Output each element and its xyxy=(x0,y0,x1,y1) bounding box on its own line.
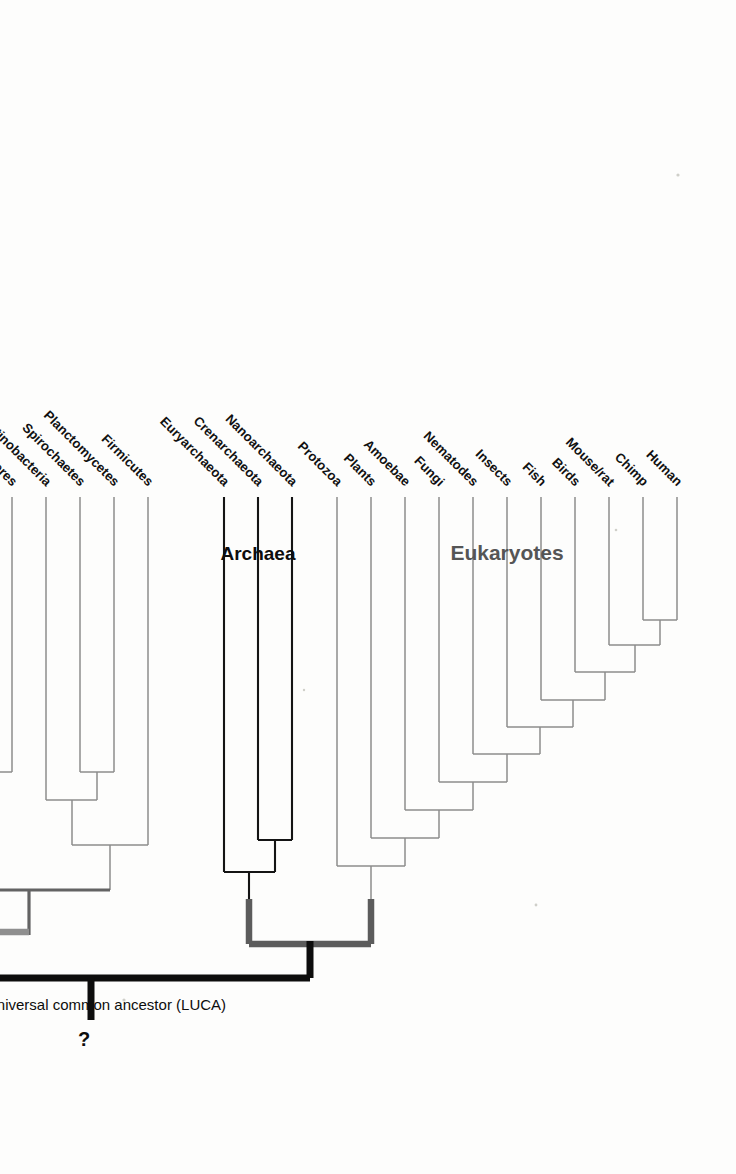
figure-page: Human Chimp Mouse/rat Birds Fish Insects… xyxy=(0,0,736,1174)
phylogenetic-tree-svg: Human Chimp Mouse/rat Birds Fish Insects… xyxy=(0,0,736,1174)
domain-label-archaea: Archaea xyxy=(221,543,296,564)
luca-label: Last universal common ancestor (LUCA) xyxy=(0,996,226,1013)
domain-label-eukaryotes: Eukaryotes xyxy=(450,541,563,564)
tree-stage: Human Chimp Mouse/rat Birds Fish Insects… xyxy=(0,0,736,1174)
root-question-mark: ? xyxy=(78,1028,90,1050)
